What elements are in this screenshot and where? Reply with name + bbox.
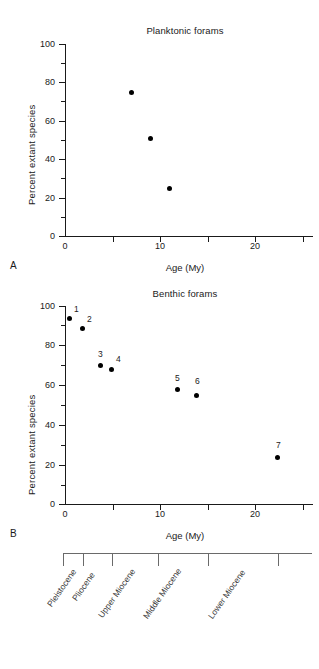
- panel-b-data-point: [175, 387, 180, 392]
- panel-b-data-point: [80, 326, 85, 331]
- panel-b-xtick-25: [303, 504, 304, 510]
- epoch-tick-4: [208, 553, 209, 566]
- panel-a-y-axis-line: [65, 44, 66, 237]
- panel-b-xtick-label-20: 20: [243, 509, 267, 519]
- panel-a-letter: A: [10, 260, 17, 271]
- panel-b-ytick-label-60: 60: [29, 380, 55, 390]
- panel-a-xtick-label-10: 10: [148, 241, 172, 251]
- panel-b-ytick-label-20: 20: [29, 460, 55, 470]
- epoch-label-middle-miocene: Middle Miocene: [141, 566, 183, 621]
- epoch-tick-2: [112, 553, 113, 566]
- panel-b-data-point: [275, 455, 280, 460]
- epoch-label-lower-miocene: Lower Miocene: [206, 568, 247, 621]
- panel-a-ytick-minor-90: [61, 63, 65, 64]
- panel-a-ytick-label-20: 20: [29, 193, 55, 203]
- panel-a-xtick-15: [208, 236, 209, 242]
- epoch-time-scale: Pleistocene Pliocene Upper Miocene Middl…: [0, 535, 319, 669]
- figure-container: Planktonic forams Percent extant species…: [0, 0, 319, 669]
- panel-b-ytick-minor-70: [61, 365, 65, 366]
- panel-b-ytick-label-0: 0: [29, 499, 55, 509]
- panel-a-title: Planktonic forams: [85, 25, 285, 36]
- panel-b-y-axis-line: [65, 306, 66, 505]
- epoch-tick-1: [83, 553, 84, 566]
- panel-a-ytick-label-100: 100: [29, 39, 55, 49]
- panel-b-ytick-60: [59, 385, 65, 386]
- panel-a-ytick-80: [59, 82, 65, 83]
- panel-b-benthic-forams: Benthic forams Percent extant species 10…: [0, 285, 319, 535]
- panel-b-xtick-label-10: 10: [148, 509, 172, 519]
- panel-b-point-label-5: 5: [175, 373, 180, 383]
- panel-b-data-point: [98, 363, 103, 368]
- panel-b-xtick-label-0: 0: [53, 509, 77, 519]
- panel-b-data-point: [194, 393, 199, 398]
- panel-b-point-label-6: 6: [195, 376, 200, 386]
- panel-b-ytick-80: [59, 345, 65, 346]
- panel-a-ytick-minor-30: [61, 178, 65, 179]
- panel-b-point-label-2: 2: [87, 314, 92, 324]
- panel-a-data-point: [167, 186, 172, 191]
- panel-b-ytick-minor-50: [61, 405, 65, 406]
- panel-b-ytick-minor-90: [61, 325, 65, 326]
- panel-b-title: Benthic forams: [85, 288, 285, 299]
- panel-a-ytick-minor-10: [61, 217, 65, 218]
- panel-b-ytick-20: [59, 465, 65, 466]
- epoch-tick-0: [63, 553, 64, 566]
- panel-a-ytick-label-60: 60: [29, 116, 55, 126]
- panel-a-x-axis-label: Age (My): [125, 262, 245, 273]
- panel-a-ytick-label-40: 40: [29, 154, 55, 164]
- panel-a-ytick-60: [59, 121, 65, 122]
- panel-b-point-label-7: 7: [276, 440, 281, 450]
- panel-a-ytick-minor-70: [61, 101, 65, 102]
- panel-a-x-axis-line: [65, 236, 313, 237]
- panel-a-xtick-25: [303, 236, 304, 242]
- panel-a-ytick-40: [59, 159, 65, 160]
- panel-b-ytick-label-40: 40: [29, 420, 55, 430]
- panel-b-x-axis-line: [65, 504, 313, 505]
- panel-a-xtick-label-20: 20: [243, 241, 267, 251]
- panel-b-ytick-label-100: 100: [29, 301, 55, 311]
- panel-b-ytick-minor-30: [61, 445, 65, 446]
- panel-a-xtick-label-0: 0: [53, 241, 77, 251]
- panel-b-data-point: [67, 316, 72, 321]
- epoch-label-upper-miocene: Upper Miocene: [96, 567, 137, 620]
- panel-a-ytick-label-80: 80: [29, 77, 55, 87]
- panel-a-data-point: [129, 90, 134, 95]
- panel-a-ytick-label-0: 0: [29, 231, 55, 241]
- panel-b-ytick-40: [59, 425, 65, 426]
- panel-b-ytick-minor-10: [61, 485, 65, 486]
- panel-a-xtick-0: [65, 230, 66, 237]
- panel-a-ytick-100: [59, 44, 65, 45]
- panel-a-planktonic-forams: Planktonic forams Percent extant species…: [0, 0, 319, 285]
- panel-b-point-label-1: 1: [74, 304, 79, 314]
- panel-b-ytick-100: [59, 306, 65, 307]
- panel-b-point-label-4: 4: [116, 354, 121, 364]
- panel-b-xtick-15: [208, 504, 209, 510]
- panel-b-point-label-3: 3: [98, 349, 103, 359]
- panel-a-data-point: [148, 136, 153, 141]
- panel-b-data-point: [109, 367, 114, 372]
- epoch-label-pleistocene: Pleistocene: [45, 567, 78, 609]
- panel-b-xtick-5: [113, 504, 114, 510]
- epoch-scale-baseline: [63, 553, 312, 554]
- panel-b-xtick-0: [65, 498, 66, 505]
- epoch-tick-5: [278, 553, 279, 566]
- panel-a-xtick-5: [113, 236, 114, 242]
- panel-b-ytick-label-80: 80: [29, 340, 55, 350]
- panel-a-ytick-20: [59, 198, 65, 199]
- panel-b-y-axis-label: Percent extant species: [26, 394, 37, 495]
- epoch-tick-3: [158, 553, 159, 566]
- panel-a-ytick-minor-50: [61, 140, 65, 141]
